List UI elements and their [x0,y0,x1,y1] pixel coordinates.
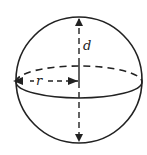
radius-label: r [36,73,43,88]
sphere-diagram: d r [0,0,147,155]
diameter-label: d [83,38,91,53]
radius-arrow-right-icon [68,77,78,85]
